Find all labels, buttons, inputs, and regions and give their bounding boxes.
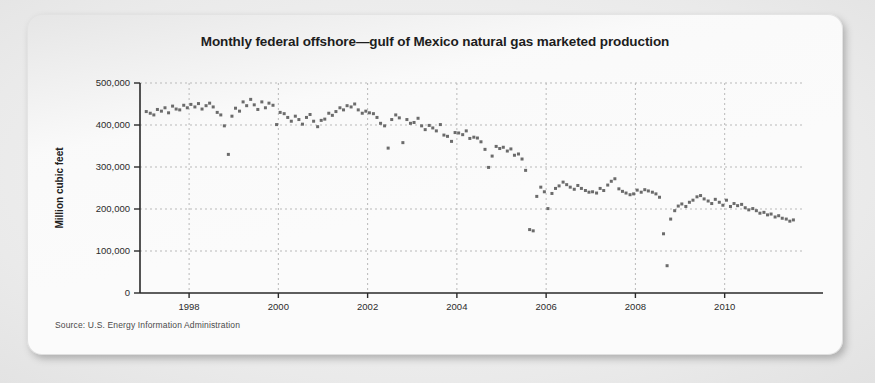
svg-text:100,000: 100,000 — [96, 245, 130, 256]
figure-card: Monthly federal offshore—gulf of Mexico … — [27, 14, 843, 355]
svg-text:1998: 1998 — [179, 301, 200, 312]
axis-lines — [140, 83, 823, 293]
svg-text:200,000: 200,000 — [96, 203, 130, 214]
scatter-plot: 0100,000200,000300,000400,000500,000 199… — [27, 14, 843, 355]
svg-text:500,000: 500,000 — [96, 77, 130, 88]
x-axis-ticks: 1998200020022004200620082010 — [179, 293, 736, 312]
y-axis-title: Million cubic feet — [54, 147, 65, 229]
source-note: Source: U.S. Energy Information Administ… — [55, 320, 240, 330]
svg-text:2004: 2004 — [446, 301, 467, 312]
svg-text:400,000: 400,000 — [96, 119, 130, 130]
svg-text:300,000: 300,000 — [96, 161, 130, 172]
svg-text:2008: 2008 — [625, 301, 646, 312]
svg-text:0: 0 — [125, 287, 130, 298]
y-axis-ticks: 0100,000200,000300,000400,000500,000 — [96, 77, 140, 298]
svg-text:2010: 2010 — [714, 301, 735, 312]
svg-text:2002: 2002 — [357, 301, 378, 312]
svg-text:2000: 2000 — [268, 301, 289, 312]
data-points — [145, 98, 795, 267]
gridlines — [140, 83, 805, 293]
svg-text:2006: 2006 — [536, 301, 557, 312]
